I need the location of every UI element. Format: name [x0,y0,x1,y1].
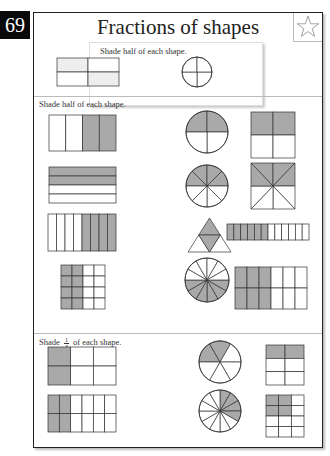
grid-cell [61,276,72,287]
grid-cell [88,72,119,86]
grid-cell [266,395,279,406]
grid-cell [295,224,302,240]
grid-cell [49,185,116,194]
worksheet: Fractions of shapes Shade half of each s… [33,12,323,448]
grid-cell [71,414,82,433]
grid-cell [285,345,304,358]
grid-cell [279,406,292,417]
grid-cell [273,135,295,158]
grid-cell [266,427,279,438]
grid-cell [82,214,91,251]
grid-cell [251,112,273,135]
grid-cell [94,276,105,287]
grid-cell [254,224,261,240]
grid-cell [268,224,275,240]
grid-cell [57,58,88,72]
shapes-canvas [34,13,322,447]
section2-shapes [48,341,304,437]
grid-cell [273,112,295,135]
grid-cell [83,287,94,298]
grid-cell [48,414,59,433]
grid-cell [93,414,104,433]
grid-cell [71,347,94,366]
grid-cell [61,265,72,276]
grid-cell [49,176,116,185]
grid-cell [49,115,66,151]
grid-cell [235,288,247,309]
grid-cell [295,288,307,309]
grid-cell [275,224,282,240]
grid-cell [48,347,71,366]
grid-cell [91,214,100,251]
grid-cell [279,416,292,427]
grid-cell [291,406,304,417]
grid-cell [48,395,59,414]
grid-cell [235,267,247,288]
grid-cell [99,214,108,251]
grid-cell [279,427,292,438]
page-number-badge: 69 [0,11,30,39]
grid-cell [48,366,71,385]
grid-cell [59,414,70,433]
grid-cell [48,214,57,251]
grid-cell [105,414,116,433]
grid-cell [248,224,255,240]
grid-cell [105,395,116,414]
grid-cell [266,406,279,417]
grid-cell [71,366,94,385]
grid-cell [285,372,304,385]
grid-cell [266,416,279,427]
grid-cell [61,298,72,309]
grid-cell [291,416,304,427]
grid-cell [72,265,83,276]
grid-cell [282,224,289,240]
grid-cell [251,135,273,158]
grid-cell [83,115,100,151]
grid-cell [74,214,83,251]
grid-cell [71,395,82,414]
grid-cell [72,276,83,287]
grid-cell [108,214,117,251]
grid-cell [93,366,116,385]
grid-cell [266,372,285,385]
grid-cell [82,414,93,433]
grid-cell [57,214,66,251]
grid-cell [72,287,83,298]
grid-cell [65,214,74,251]
grid-cell [247,288,259,309]
grid-cell [99,115,116,151]
grid-cell [57,72,88,86]
grid-cell [295,267,307,288]
grid-cell [271,267,283,288]
grid-cell [93,347,116,366]
grid-cell [49,194,116,203]
grid-cell [271,288,283,309]
grid-cell [247,267,259,288]
grid-cell [83,265,94,276]
grid-cell [291,395,304,406]
grid-cell [259,267,271,288]
grid-cell [261,224,268,240]
grid-cell [241,224,248,240]
grid-cell [234,224,241,240]
grid-cell [66,115,83,151]
grid-cell [88,58,119,72]
grid-cell [59,395,70,414]
grid-cell [49,167,116,176]
grid-cell [259,288,271,309]
grid-cell [266,358,285,371]
grid-cell [94,265,105,276]
grid-cell [291,427,304,438]
section1-shapes [48,111,309,309]
grid-cell [266,345,285,358]
grid-cell [94,298,105,309]
grid-cell [283,288,295,309]
grid-cell [61,287,72,298]
triangle-part [199,218,221,235]
grid-cell [227,224,234,240]
grid-cell [82,395,93,414]
grid-cell [94,287,105,298]
grid-cell [285,358,304,371]
grid-cell [302,224,309,240]
grid-cell [83,298,94,309]
